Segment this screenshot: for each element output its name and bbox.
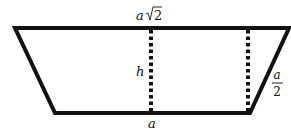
slant-side-numerator: a (273, 68, 280, 82)
top-side-sqrt: 2 (154, 8, 162, 23)
bottom-side-label: a (148, 116, 156, 131)
trapezoid-diagram: a 2 h a 2 a (0, 0, 291, 131)
slant-side-label: a 2 (272, 68, 283, 99)
slant-side-denominator: 2 (273, 85, 281, 99)
top-side-var: a (136, 8, 144, 23)
top-side-label: a 2 (136, 7, 162, 23)
height-label: h (136, 64, 144, 79)
